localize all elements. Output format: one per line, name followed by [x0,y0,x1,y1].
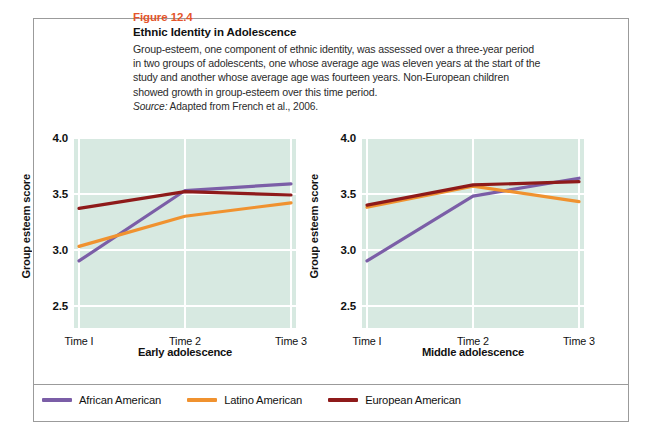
legend-swatch-icon [187,398,217,402]
legend-item[interactable]: African American [42,394,161,406]
legend-swatch-icon [42,398,72,402]
series-line-african-american [367,178,579,261]
plot-area-middle-adolescence: 4.03.53.02.5Time ITime 2Time 3 [362,138,584,328]
y-tick-label: 3.5 [53,188,68,200]
series-layer [74,138,296,328]
y-tick-label: 3.5 [341,188,356,200]
chart-legend: African AmericanLatino AmericanEuropean … [42,394,461,406]
x-axis-title: Middle adolescence [362,346,584,358]
y-tick-label: 4.0 [341,132,356,144]
figure-source-text: Adapted from French et al., 2006. [170,101,318,112]
series-layer [362,138,584,328]
chart-panel-middle-adolescence: Group esteem score 4.03.53.02.5Time ITim… [310,128,600,360]
plot-area-early-adolescence: 4.03.53.02.5Time ITime 2Time 3 [74,138,296,328]
y-axis-title: Group esteem score [20,174,36,279]
figure-title: Ethnic Identity in Adolescence [133,25,543,40]
figure-caption-block: Figure 12.4 Ethnic Identity in Adolescen… [133,10,543,113]
y-axis-title: Group esteem score [308,174,324,279]
legend-label: African American [79,394,161,406]
legend-label: Latino American [224,394,302,406]
chart-panel-early-adolescence: Group esteem score 4.03.53.02.5Time ITim… [22,128,312,360]
y-tick-label: 3.0 [341,244,356,256]
figure-source: Source: Adapted from French et al., 2006… [133,100,543,113]
figure-source-label: Source: [133,101,167,112]
chart-panels: Group esteem score 4.03.53.02.5Time ITim… [0,128,596,360]
legend-item[interactable]: Latino American [187,394,302,406]
legend-item[interactable]: European American [328,394,461,406]
figure-description: Group-esteem, one component of ethnic id… [133,42,543,99]
legend-swatch-icon [328,398,358,402]
x-axis-title: Early adolescence [74,346,296,358]
legend-label: European American [365,394,461,406]
y-tick-label: 2.5 [53,300,68,312]
y-tick-label: 4.0 [53,132,68,144]
y-tick-label: 2.5 [341,300,356,312]
legend-divider [34,384,628,385]
figure-number: Figure 12.4 [133,10,543,24]
y-tick-label: 3.0 [53,244,68,256]
